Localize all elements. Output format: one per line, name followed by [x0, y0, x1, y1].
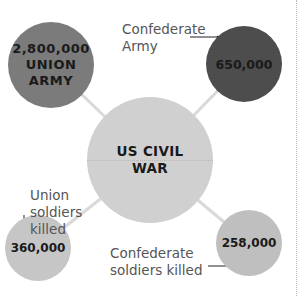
civil-war-diagram: 2,800,000 UNION ARMY 650,000 US CIVIL WA…: [0, 0, 299, 296]
us-civil-war-center-node: US CIVIL WAR: [87, 97, 213, 223]
confederate-army-node: 650,000: [206, 26, 282, 102]
union-killed-label-line3: killed: [30, 221, 82, 238]
center-title-line2: WAR: [132, 160, 168, 177]
union-killed-label-line2: soldiers: [30, 204, 82, 221]
union-army-label-line1: UNION: [26, 57, 77, 73]
union-killed-label-line1: Union: [30, 187, 82, 204]
confederate-killed-label: Confederate soldiers killed: [110, 245, 203, 279]
confederate-army-label-line1: Confederate: [122, 21, 206, 38]
union-army-node: 2,800,000 UNION ARMY: [8, 22, 94, 108]
confederate-army-label-line2: Army: [122, 38, 206, 55]
union-army-value: 2,800,000: [12, 41, 90, 57]
confederate-killed-label-line1: Confederate: [110, 245, 203, 262]
right-edge-dotted-border: [296, 0, 297, 296]
union-killed-value: 360,000: [11, 241, 66, 255]
center-dotted-divider: [87, 160, 213, 161]
center-title-line1: US CIVIL: [117, 143, 184, 160]
confederate-killed-node: 258,000: [216, 210, 282, 276]
confederate-killed-label-line2: soldiers killed: [110, 262, 203, 279]
union-killed-label: Union soldiers killed: [30, 187, 82, 238]
confederate-army-value: 650,000: [216, 57, 273, 72]
confederate-army-label: Confederate Army: [122, 21, 206, 55]
confederate-killed-value: 258,000: [222, 236, 277, 250]
union-army-label-line2: ARMY: [29, 73, 73, 89]
